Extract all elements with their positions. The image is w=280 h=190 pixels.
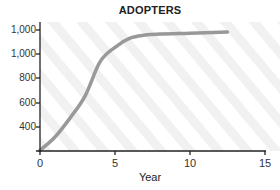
plot-background (40, 22, 280, 151)
y-tick-label: 600 (19, 98, 36, 108)
adopters-chart: ADOPTERS 1,000 1,000 800 600 400 0 5 10 … (0, 0, 280, 190)
x-tick-label: 10 (184, 157, 196, 169)
y-tick-label: 400 (19, 122, 36, 132)
y-tick-label: 1,000 (11, 25, 36, 35)
chart-title: ADOPTERS (0, 4, 280, 16)
x-tick-label: 5 (112, 157, 118, 169)
y-tick-label: 1,000 (11, 49, 36, 59)
x-tick-label: 15 (259, 157, 271, 169)
y-axis (36, 22, 40, 152)
x-axis (36, 151, 266, 155)
y-tick-label: 800 (19, 73, 36, 83)
x-axis-label: Year (139, 171, 161, 183)
x-tick-label: 0 (37, 157, 43, 169)
